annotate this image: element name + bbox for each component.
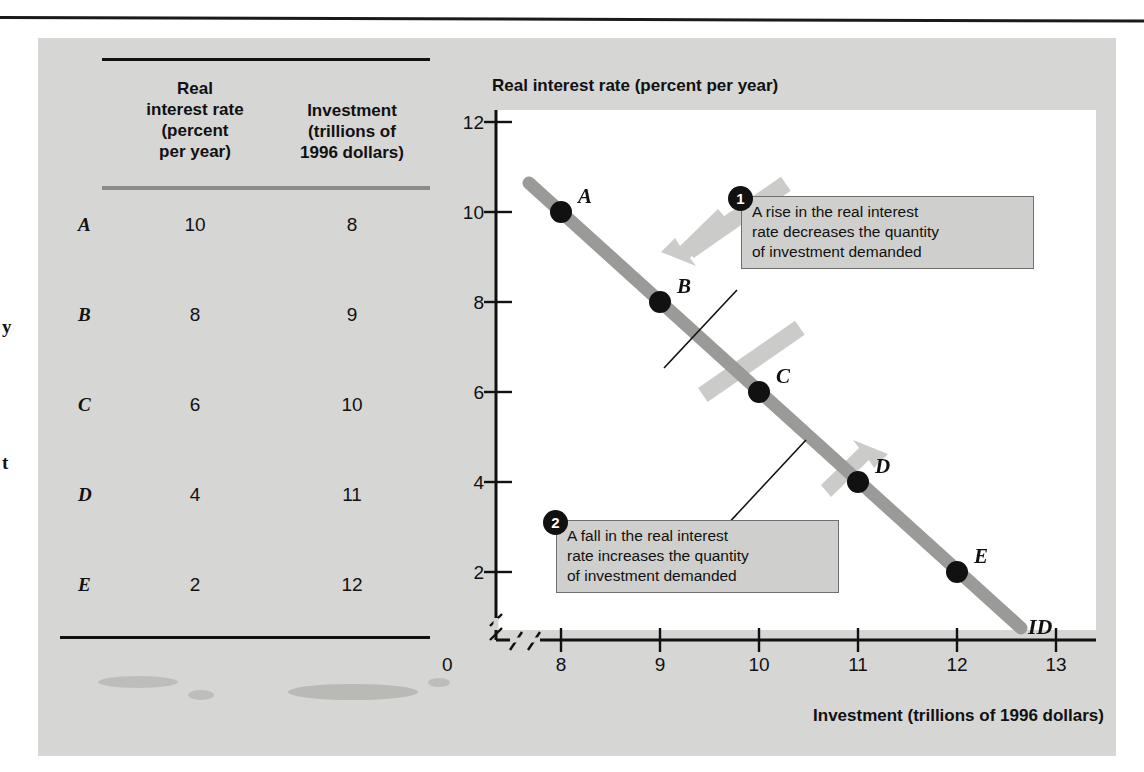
text-fragment: t	[2, 452, 8, 474]
chart-graphics	[436, 58, 1108, 738]
table-header-rate: Real interest rate (percent per year)	[120, 78, 270, 162]
data-point-b	[649, 291, 671, 313]
table-cell-rate: 2	[120, 574, 270, 596]
table-row: C	[78, 394, 91, 416]
table-row: D	[78, 484, 92, 506]
table-row: A	[78, 214, 91, 236]
callout-box-2: A fall in the real interest rate increas…	[556, 520, 839, 593]
data-point-c	[748, 381, 770, 403]
scan-artifact	[98, 676, 178, 688]
table-cell-rate: 4	[120, 484, 270, 506]
scan-artifact	[188, 690, 214, 700]
table-cell-rate: 8	[120, 304, 270, 326]
callout-badge-2: 2	[543, 510, 568, 535]
callout-badge-1: 1	[728, 186, 753, 211]
text-fragment: y	[2, 316, 12, 338]
table-row: E	[78, 574, 91, 596]
table-cell-investment: 9	[276, 304, 428, 326]
data-point-d	[847, 471, 869, 493]
point-label-e: E	[974, 544, 988, 569]
data-point-a	[550, 201, 572, 223]
table-top-rule	[102, 58, 430, 61]
point-label-c: C	[776, 364, 790, 389]
callout-2-leader	[724, 440, 806, 528]
top-divider-rule	[0, 16, 1144, 23]
table-cell-investment: 11	[276, 484, 428, 506]
table-cell-rate: 10	[120, 214, 270, 236]
point-label-a: A	[578, 184, 592, 209]
table-cell-investment: 8	[276, 214, 428, 236]
scan-artifact	[288, 684, 418, 700]
callout-box-1: A rise in the real interest rate decreas…	[741, 196, 1034, 269]
table-cell-investment: 10	[276, 394, 428, 416]
data-point-e	[946, 561, 968, 583]
table-header-investment: Investment (trillions of 1996 dollars)	[276, 100, 428, 163]
investment-demand-chart: Real interest rate (percent per year) In…	[436, 58, 1108, 738]
scan-artifact	[428, 678, 450, 687]
point-label-d: D	[875, 454, 890, 479]
table-row: B	[78, 304, 91, 326]
table-cell-rate: 6	[120, 394, 270, 416]
curve-label-id: ID	[1028, 614, 1052, 640]
table-cell-investment: 12	[276, 574, 428, 596]
data-table: Real interest rate (percent per year) In…	[60, 58, 430, 658]
table-bottom-rule	[60, 636, 430, 639]
point-label-b: B	[677, 274, 691, 299]
table-header-rule	[102, 186, 430, 190]
figure-panel: Real interest rate (percent per year) In…	[38, 38, 1116, 756]
page-gutter	[0, 38, 38, 756]
direction-arrow-down	[698, 321, 888, 497]
